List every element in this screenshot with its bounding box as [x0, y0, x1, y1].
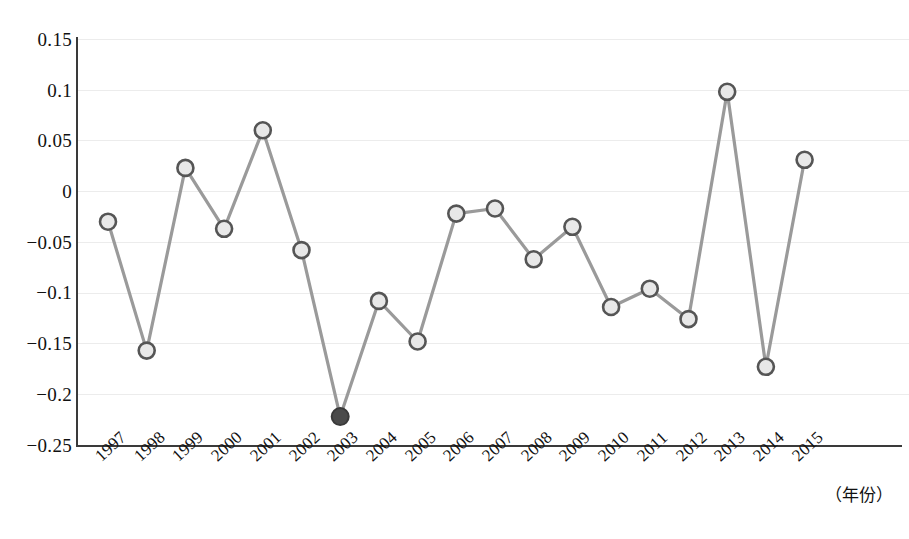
data-point-highlighted	[332, 408, 349, 425]
data-point	[216, 221, 232, 237]
data-point	[719, 84, 735, 100]
chart-figure: 0.15 0.1 0.05 0 −0.05 −0.1 −0.15 −0.2 −0…	[0, 0, 909, 539]
series-line	[108, 92, 805, 417]
data-point	[526, 251, 542, 267]
data-point	[681, 311, 697, 327]
data-point	[603, 299, 619, 315]
data-point	[100, 214, 116, 230]
data-point	[642, 281, 658, 297]
data-point	[255, 122, 271, 138]
data-point	[294, 242, 310, 258]
data-point	[564, 219, 580, 235]
data-point	[797, 152, 813, 168]
data-point	[448, 206, 464, 222]
data-point	[371, 293, 387, 309]
data-point	[139, 343, 155, 359]
data-point	[487, 201, 503, 217]
data-point	[177, 160, 193, 176]
series-markers	[100, 84, 813, 425]
x-axis-unit-label: （年份）	[825, 487, 893, 504]
data-point	[758, 359, 774, 375]
data-point	[410, 334, 426, 350]
